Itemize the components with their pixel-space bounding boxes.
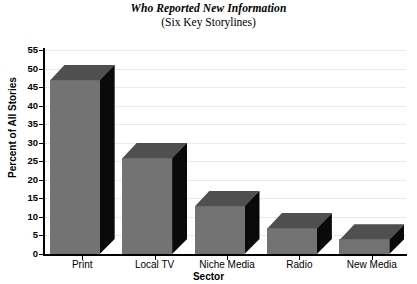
title-block: Who Reported New Information (Six Key St…	[0, 2, 417, 29]
bar-front-face	[267, 228, 317, 255]
bar-radio	[267, 213, 332, 254]
y-axis-tick	[39, 124, 44, 125]
chart-title: Who Reported New Information	[0, 2, 417, 15]
y-axis-tick	[39, 161, 44, 162]
bar-print	[50, 65, 115, 254]
bar-front-face	[122, 158, 172, 255]
y-axis-tick	[39, 217, 44, 218]
y-axis-tick	[39, 69, 44, 70]
y-axis-tick	[39, 87, 44, 88]
bar-local-tv	[122, 143, 187, 254]
chart-subtitle: (Six Key Storylines)	[0, 15, 417, 29]
bar-front-face	[195, 206, 245, 255]
gridline	[44, 50, 406, 51]
chart-page: Who Reported New Information (Six Key St…	[0, 0, 417, 284]
plot-area	[44, 50, 406, 254]
y-axis-tick	[39, 198, 44, 199]
bar-front-face	[339, 239, 389, 255]
x-axis-title: Sector	[0, 271, 417, 282]
bar-front-face	[50, 80, 100, 255]
y-axis-tick	[39, 254, 44, 255]
y-axis-tick	[39, 180, 44, 181]
bar-side-face	[172, 143, 187, 254]
bar-new-media	[339, 224, 404, 254]
y-axis-tick	[39, 143, 44, 144]
y-axis-tick	[39, 235, 44, 236]
y-axis-tick-label: 10	[8, 212, 38, 221]
y-axis-tick-label: 0	[8, 249, 38, 258]
y-axis-tick	[39, 106, 44, 107]
x-axis-tick-label: New Media	[327, 259, 417, 270]
x-axis-line	[43, 254, 407, 256]
bar-niche-media	[195, 191, 260, 254]
bar-side-face	[100, 65, 115, 254]
y-axis-title: Percent of All Stories	[7, 43, 18, 213]
y-axis-tick-label: 5	[8, 230, 38, 239]
y-axis-tick	[39, 50, 44, 51]
y-axis-line	[43, 48, 45, 256]
